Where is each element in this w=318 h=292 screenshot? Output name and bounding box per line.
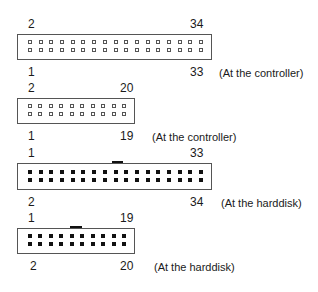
- pin-icon: [124, 178, 128, 182]
- pin-icon: [146, 40, 150, 44]
- pin-icon: [101, 112, 105, 116]
- pin-icon: [91, 112, 95, 116]
- pin-icon: [59, 112, 63, 116]
- pin-icon: [81, 178, 85, 182]
- pin-icon: [114, 48, 118, 52]
- pin-icon: [49, 104, 53, 108]
- pin-icon: [178, 48, 182, 52]
- pin-icon: [39, 178, 43, 182]
- pin-icon: [156, 178, 160, 182]
- pin-icon: [49, 178, 53, 182]
- pin-icon: [49, 48, 53, 52]
- pin-icon: [156, 170, 160, 174]
- pin-icon: [114, 40, 118, 44]
- pin-icon: [122, 242, 126, 246]
- pin-icon: [38, 234, 42, 238]
- pin-icon: [92, 170, 96, 174]
- pin-label-bottom-right: 33: [190, 66, 203, 78]
- pin-icon: [28, 112, 32, 116]
- pin-label-top-left: 1: [28, 212, 35, 224]
- pin-icon: [112, 234, 116, 238]
- connector-body: [17, 228, 135, 254]
- pin-icon: [135, 170, 139, 174]
- pin-icon: [199, 170, 203, 174]
- pin-icon: [28, 234, 32, 238]
- pin-icon: [28, 40, 32, 44]
- pin-icon: [103, 178, 107, 182]
- pin-icon: [39, 170, 43, 174]
- pin-icon: [39, 48, 43, 52]
- connector-body: [17, 98, 135, 124]
- pin-icon: [38, 242, 42, 246]
- pin-label-bottom-left: 1: [28, 130, 35, 142]
- pin-icon: [178, 178, 182, 182]
- pin-icon: [92, 40, 96, 44]
- pin-icon: [103, 48, 107, 52]
- pin-icon: [38, 104, 42, 108]
- pin-icon: [80, 242, 84, 246]
- pin-label-top-right: 20: [120, 82, 133, 94]
- pin-icon: [60, 48, 64, 52]
- pin-icon: [28, 170, 32, 174]
- pin-icon: [60, 178, 64, 182]
- pin-icon: [122, 234, 126, 238]
- pin-icon: [70, 234, 74, 238]
- pin-icon: [124, 170, 128, 174]
- pin-icon: [28, 48, 32, 52]
- pin-icon: [188, 40, 192, 44]
- connector-caption: (At the harddisk): [154, 261, 235, 273]
- pin-icon: [38, 112, 42, 116]
- pin-icon: [81, 48, 85, 52]
- pin-icon: [188, 48, 192, 52]
- pin-icon: [199, 40, 203, 44]
- connector-caption: (At the controller): [152, 131, 236, 143]
- pin-label-bottom-right: 20: [120, 260, 133, 272]
- pin-icon: [91, 234, 95, 238]
- pin-icon: [71, 170, 75, 174]
- pin-icon: [39, 40, 43, 44]
- pin-icon: [135, 178, 139, 182]
- pin-icon: [114, 170, 118, 174]
- pin-icon: [114, 178, 118, 182]
- pin-label-top-left: 2: [28, 82, 35, 94]
- pin-label-bottom-left: 1: [28, 66, 35, 78]
- pin-icon: [59, 104, 63, 108]
- pin-icon: [71, 40, 75, 44]
- pin-icon: [70, 242, 74, 246]
- pin-icon: [71, 178, 75, 182]
- pin-icon: [101, 242, 105, 246]
- pin-icon: [146, 170, 150, 174]
- pin-icon: [188, 178, 192, 182]
- pin-icon: [167, 178, 171, 182]
- pin-icon: [124, 40, 128, 44]
- pin-icon: [167, 40, 171, 44]
- pin-label-bottom-right: 19: [120, 130, 133, 142]
- pin-icon: [178, 40, 182, 44]
- pin-icon: [59, 242, 63, 246]
- pin-icon: [28, 104, 32, 108]
- pin-icon: [103, 170, 107, 174]
- pin-icon: [101, 104, 105, 108]
- connector-caption: (At the harddisk): [221, 197, 302, 209]
- pin-icon: [112, 112, 116, 116]
- pin-icon: [92, 48, 96, 52]
- pin-icon: [156, 40, 160, 44]
- pin-icon: [81, 40, 85, 44]
- connector-body: [17, 163, 212, 190]
- pin-icon: [91, 242, 95, 246]
- pin-icon: [49, 112, 53, 116]
- pin-icon: [92, 178, 96, 182]
- pin-icon: [60, 40, 64, 44]
- pin-label-bottom-left: 2: [28, 196, 35, 208]
- pin-icon: [60, 170, 64, 174]
- pin-icon: [80, 104, 84, 108]
- pin-icon: [91, 104, 95, 108]
- pin-icon: [101, 234, 105, 238]
- pin-icon: [59, 234, 63, 238]
- pin-label-bottom-left: 2: [30, 260, 37, 272]
- pin-icon: [49, 234, 53, 238]
- pin-icon: [135, 40, 139, 44]
- pin-label-top-left: 2: [28, 18, 35, 30]
- pin-icon: [146, 48, 150, 52]
- pin-icon: [70, 112, 74, 116]
